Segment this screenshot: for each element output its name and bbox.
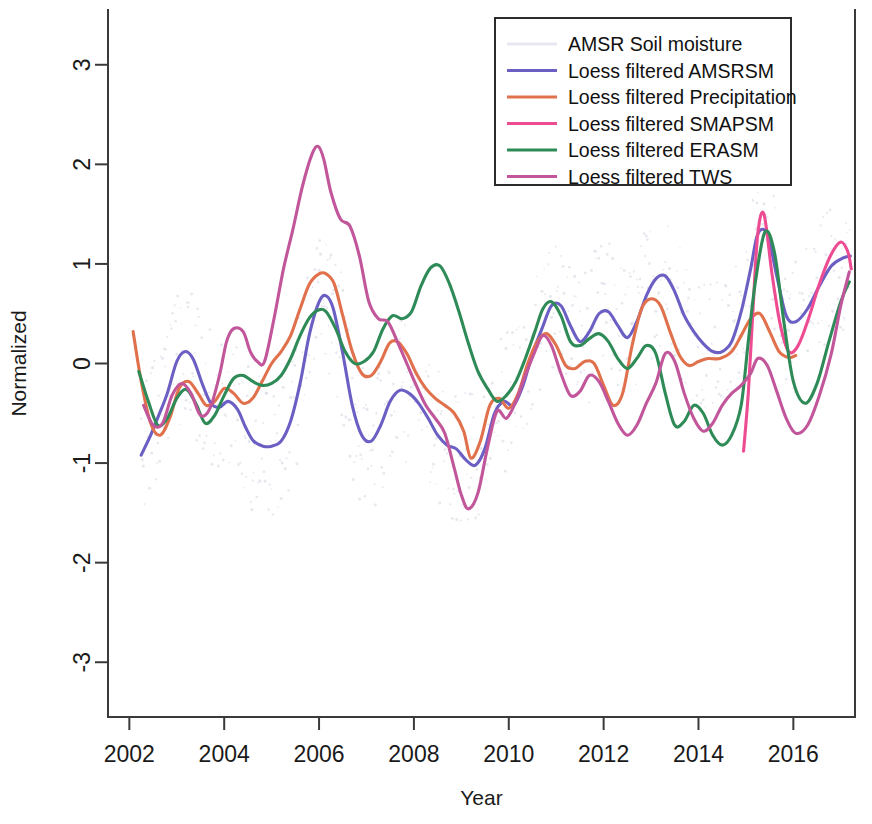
- raw-data-point: [165, 366, 167, 368]
- raw-data-point: [526, 423, 528, 425]
- raw-data-point: [721, 299, 723, 301]
- raw-data-point: [520, 415, 523, 418]
- raw-data-point: [161, 414, 163, 416]
- raw-data-point: [700, 402, 703, 405]
- raw-data-point: [194, 352, 196, 354]
- raw-data-point: [313, 268, 316, 271]
- raw-data-point: [314, 336, 317, 339]
- raw-data-point: [379, 379, 382, 382]
- legend-label-amsr_raw: AMSR Soil moisture: [568, 33, 742, 55]
- raw-data-point: [318, 239, 321, 242]
- raw-data-point: [364, 495, 366, 497]
- raw-data-point: [666, 308, 668, 310]
- raw-data-point: [504, 470, 507, 473]
- series-line-tws: [144, 146, 850, 509]
- raw-data-point: [200, 336, 203, 339]
- raw-data-point: [299, 321, 301, 323]
- raw-data-point: [271, 488, 273, 490]
- raw-data-point: [174, 304, 176, 306]
- raw-data-point: [451, 517, 454, 520]
- raw-data-point: [539, 388, 542, 391]
- raw-data-point: [804, 316, 806, 318]
- raw-data-point: [410, 386, 413, 389]
- legend-label-precipitation: Loess filtered Precipitation: [568, 86, 797, 108]
- raw-data-point: [258, 480, 261, 483]
- raw-data-point: [470, 477, 472, 479]
- raw-data-point: [241, 473, 243, 475]
- raw-data-point: [738, 371, 741, 374]
- raw-data-point: [602, 355, 604, 357]
- raw-data-point: [374, 504, 377, 507]
- raw-data-point: [604, 293, 606, 295]
- raw-data-point: [727, 389, 729, 391]
- raw-data-point: [590, 269, 593, 272]
- raw-data-point: [392, 383, 395, 386]
- raw-data-point: [556, 290, 558, 292]
- raw-data-point: [513, 344, 515, 346]
- raw-data-point: [688, 288, 691, 291]
- raw-data-point: [518, 326, 520, 328]
- raw-data-point: [319, 253, 322, 256]
- raw-data-point: [272, 395, 275, 398]
- raw-data-point: [255, 496, 258, 499]
- raw-data-point: [242, 381, 244, 383]
- raw-data-point: [289, 396, 292, 399]
- raw-data-point: [236, 418, 239, 421]
- raw-data-point: [536, 276, 538, 278]
- raw-data-point: [331, 342, 333, 344]
- raw-data-point: [568, 266, 571, 269]
- raw-data-point: [328, 372, 330, 374]
- raw-data-point: [502, 440, 505, 443]
- raw-data-point: [648, 262, 651, 265]
- raw-data-point: [593, 250, 596, 253]
- raw-data-point: [629, 272, 631, 274]
- raw-data-point: [184, 407, 187, 410]
- raw-data-point: [718, 393, 720, 395]
- raw-data-point: [401, 386, 403, 388]
- raw-data-point: [519, 346, 521, 348]
- raw-data-point: [407, 434, 409, 436]
- raw-data-point: [784, 278, 787, 281]
- raw-data-point: [748, 305, 750, 307]
- raw-data-point: [744, 304, 746, 306]
- raw-data-point: [438, 371, 440, 373]
- raw-data-point: [841, 267, 843, 269]
- raw-data-point: [703, 284, 705, 286]
- raw-data-point: [227, 371, 229, 373]
- raw-data-point: [813, 248, 816, 251]
- raw-data-point: [653, 275, 655, 277]
- x-tick-label: 2008: [388, 741, 439, 767]
- raw-data-point: [394, 411, 396, 413]
- raw-data-point: [412, 384, 414, 386]
- raw-data-point: [677, 286, 680, 289]
- raw-data-point: [507, 449, 509, 451]
- raw-data-point: [167, 437, 169, 439]
- raw-data-point: [197, 316, 199, 318]
- raw-data-point: [701, 389, 703, 391]
- raw-data-point: [483, 396, 486, 399]
- raw-data-point: [668, 225, 670, 227]
- raw-data-point: [468, 486, 471, 489]
- raw-data-point: [449, 503, 451, 505]
- raw-data-point: [696, 394, 698, 396]
- raw-data-point: [334, 264, 336, 266]
- y-tick-label: 0: [69, 357, 95, 370]
- legend-label-erasm: Loess filtered ERASM: [568, 139, 759, 161]
- raw-data-point: [788, 297, 790, 299]
- raw-data-point: [687, 297, 690, 300]
- raw-data-point: [446, 452, 448, 454]
- raw-data-point: [389, 455, 391, 457]
- y-tick-label: -3: [69, 652, 95, 672]
- raw-data-point: [338, 356, 340, 358]
- raw-data-point: [466, 473, 468, 475]
- legend-label-tws: Loess filtered TWS: [568, 166, 732, 188]
- raw-data-point: [530, 408, 532, 410]
- raw-data-point: [548, 252, 550, 254]
- raw-data-point: [650, 357, 652, 359]
- raw-data-point: [301, 351, 303, 353]
- raw-data-point: [295, 462, 298, 465]
- raw-data-point: [257, 482, 259, 484]
- raw-data-point: [365, 408, 368, 411]
- raw-data-point: [305, 377, 308, 380]
- raw-data-point: [806, 349, 809, 352]
